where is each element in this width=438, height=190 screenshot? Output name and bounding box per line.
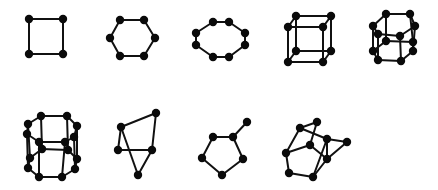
graph-node <box>23 130 31 138</box>
graph-edge <box>152 113 156 150</box>
graph-node <box>284 23 292 31</box>
graph-hexagonal-prism <box>369 10 419 65</box>
graph-node <box>306 141 314 149</box>
graph-node <box>319 23 327 31</box>
graph-cube <box>284 12 335 66</box>
graph-figure-svg <box>0 0 438 190</box>
graph-node <box>140 16 148 24</box>
graph-node <box>26 154 34 162</box>
graph-node <box>117 123 125 131</box>
graph-figure <box>0 0 438 190</box>
graph-node <box>25 15 33 23</box>
graph-double-octagon-prism <box>23 112 81 181</box>
graph-node <box>313 118 321 126</box>
graph-node <box>24 164 32 172</box>
graph-node <box>411 22 419 30</box>
graph-node <box>106 34 114 42</box>
graph-edge <box>62 142 65 177</box>
graph-node <box>309 173 317 181</box>
graph-node <box>140 52 148 60</box>
graph-node <box>327 47 335 55</box>
graph-node <box>397 57 405 65</box>
graph-node <box>192 41 200 49</box>
graph-node <box>116 52 124 60</box>
graph-node <box>285 169 293 177</box>
graph-node <box>409 38 417 46</box>
graph-node <box>374 30 382 38</box>
graph-node <box>61 138 69 146</box>
graph-node <box>382 37 390 45</box>
graph-node <box>192 29 200 37</box>
graph-node <box>229 133 237 141</box>
graph-node <box>239 155 247 163</box>
graph-square <box>25 15 67 58</box>
graph-edge <box>138 150 152 175</box>
graph-node <box>209 133 217 141</box>
graph-node <box>241 29 249 37</box>
graph-node <box>25 50 33 58</box>
graph-node <box>148 146 156 154</box>
graph-kite-graph <box>114 109 160 179</box>
graph-node <box>296 124 304 132</box>
graph-node <box>323 135 331 143</box>
graph-node <box>59 15 67 23</box>
graph-irregular-polyhedron <box>282 118 351 181</box>
graph-node <box>116 16 124 24</box>
graph-node <box>323 155 331 163</box>
graph-hexagon <box>106 16 159 60</box>
graph-node <box>73 122 81 130</box>
graph-node <box>58 173 66 181</box>
graph-node <box>218 171 226 179</box>
graph-edge <box>121 113 156 127</box>
graph-node <box>382 10 390 18</box>
graph-node <box>59 50 67 58</box>
graph-node <box>73 155 81 163</box>
graph-node <box>64 146 72 154</box>
graph-node <box>71 165 79 173</box>
graph-node <box>284 58 292 66</box>
graph-node <box>114 146 122 154</box>
graph-node <box>225 18 233 26</box>
graph-node <box>63 112 71 120</box>
graph-node <box>292 47 300 55</box>
graph-node <box>343 138 351 146</box>
graph-node <box>369 47 377 55</box>
graph-node <box>38 145 46 153</box>
graph-node <box>225 53 233 61</box>
graph-node <box>369 22 377 30</box>
graph-octagon <box>192 18 249 61</box>
graph-pentagon-with-tail <box>198 118 251 179</box>
graph-node <box>327 12 335 20</box>
graph-node <box>151 34 159 42</box>
graph-edge <box>74 137 75 169</box>
graph-node <box>35 173 43 181</box>
graph-node <box>406 10 414 18</box>
graph-node <box>24 120 32 128</box>
graph-node <box>134 171 142 179</box>
graph-edge <box>27 134 28 168</box>
graph-node <box>198 154 206 162</box>
graph-node <box>319 58 327 66</box>
graph-node <box>37 112 45 120</box>
graph-node <box>243 118 251 126</box>
graph-node <box>409 47 417 55</box>
graph-node <box>241 41 249 49</box>
graph-node <box>396 32 404 40</box>
graph-node <box>292 12 300 20</box>
graph-node <box>282 149 290 157</box>
graph-node <box>152 109 160 117</box>
graph-node <box>374 56 382 64</box>
graph-node <box>209 53 217 61</box>
graph-node <box>70 133 78 141</box>
graph-node <box>209 18 217 26</box>
